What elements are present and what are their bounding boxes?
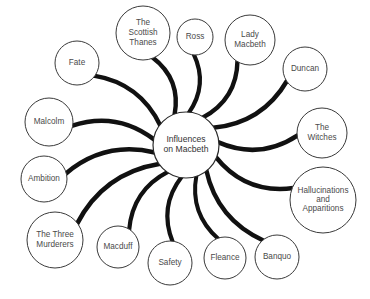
node-label-duncan: Duncan <box>291 64 320 73</box>
spoke-the-scottish-thanes <box>152 57 176 115</box>
mind-map-svg: TheScottishThanesRossLadyMacbethDuncanTh… <box>0 0 370 299</box>
spoke-the-three-murderers <box>77 164 160 224</box>
node-label-ambition: Ambition <box>28 174 60 183</box>
node-label-the-three-murderers: The ThreeMurderers <box>36 230 74 249</box>
spoke-fate <box>94 76 161 126</box>
spoke-macduff <box>129 172 168 231</box>
mind-map-canvas: TheScottishThanesRossLadyMacbethDuncanTh… <box>0 0 370 299</box>
node-ross[interactable]: Ross <box>177 19 213 55</box>
node-label-ross: Ross <box>186 32 205 41</box>
node-fleance[interactable]: Fleance <box>204 237 246 279</box>
spoke-duncan <box>213 80 287 127</box>
node-duncan[interactable]: Duncan <box>283 47 327 91</box>
center-node-group[interactable]: Influenceson Macbeth <box>153 112 219 178</box>
node-macduff[interactable]: Macduff <box>97 226 139 268</box>
node-banquo[interactable]: Banquo <box>255 235 299 279</box>
spoke-ross <box>189 54 200 113</box>
spoke-hallucinations-and-apparitions <box>216 157 294 189</box>
node-the-witches[interactable]: TheWitches <box>297 108 347 158</box>
node-the-scottish-thanes[interactable]: TheScottishThanes <box>116 6 170 60</box>
node-fate[interactable]: Fate <box>55 41 99 85</box>
node-hallucinations-and-apparitions[interactable]: HallucinationsandApparitions <box>290 167 356 233</box>
node-the-three-murderers[interactable]: The ThreeMurderers <box>27 212 83 268</box>
spoke-safety <box>167 177 181 242</box>
node-safety[interactable]: Safety <box>148 241 192 285</box>
spoke-the-witches <box>218 135 298 150</box>
node-label-fleance: Fleance <box>210 253 240 262</box>
spoke-lady-macbeth <box>203 60 238 117</box>
node-label-fate: Fate <box>69 58 86 67</box>
node-ambition[interactable]: Ambition <box>21 156 67 202</box>
node-label-safety: Safety <box>158 258 182 267</box>
node-label-macduff: Macduff <box>104 242 134 251</box>
spoke-fleance <box>195 175 218 239</box>
spoke-malcolm <box>72 121 155 140</box>
node-lady-macbeth[interactable]: LadyMacbeth <box>225 15 275 65</box>
node-malcolm[interactable]: Malcolm <box>25 98 73 146</box>
spoke-banquo <box>206 170 264 241</box>
center-node-label: Influenceson Macbeth <box>164 134 209 155</box>
node-label-malcolm: Malcolm <box>34 117 65 126</box>
node-label-banquo: Banquo <box>263 252 292 261</box>
